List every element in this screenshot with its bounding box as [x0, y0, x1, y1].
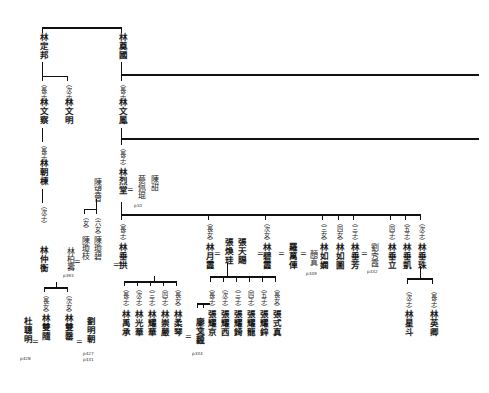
sibling-connector-wencha-wenming	[42, 76, 68, 77]
sibling-connector-lietang-children	[121, 214, 420, 216]
node-lin-shuangsui: 林雙隨	[40, 314, 49, 341]
node-cai-peikun: 蔡佩琨	[136, 175, 144, 199]
ordinal-chen-qiongbi: （六女）	[94, 214, 100, 238]
node-zhang-huangui: 張煥珪	[223, 238, 232, 265]
ordinal-lin-zhonghen: （次子）	[40, 203, 46, 227]
node-lin-chaodong: 林朝棟	[38, 159, 47, 186]
sibling-connector-chuizhu-children	[407, 278, 433, 280]
sibling-connector-shuang-sisters	[44, 287, 68, 289]
node-lin-chuifang: 林垂芳	[349, 243, 358, 270]
marriage-symbol-shuangqing: =	[76, 338, 83, 346]
node-zhang-yaoqi: 張耀錡	[232, 310, 241, 337]
ordinal-lin-chongyan: （四子）	[161, 286, 167, 310]
node-lin-dianguo: 林奠國	[117, 33, 126, 60]
node-zhang-yaoxin: 張耀鋅	[258, 310, 267, 337]
page-ref-lin-baishou: p393	[63, 274, 74, 279]
node-lin-chuili: 林垂立	[386, 243, 395, 270]
node-lin-chuikai: 林垂凱	[401, 243, 410, 270]
node-lin-zhonghen: 林仲衡	[38, 246, 47, 273]
drop-line-lin-yingqing	[432, 278, 433, 284]
node-zhang-yaoxi: 張耀西	[219, 310, 228, 337]
node-zhang-shizhen: 張式真	[271, 310, 280, 337]
ordinal-lin-ruxian: （三女）	[320, 220, 326, 244]
ordinal-chen-qiongzhi: （女）	[82, 214, 88, 232]
node-chen-qiongzhi: 陳瓊枝	[80, 236, 88, 260]
node-zhang-yaojing: 張耀京	[206, 310, 215, 337]
page-ref-du-congming: p428	[20, 357, 31, 362]
marriage-symbol-lietang: =	[127, 186, 134, 194]
drop-line-zhang-shizhen	[275, 276, 276, 282]
node-chen-qiongbi: 陳瓊碧	[92, 236, 100, 260]
ordinal-lin-shuangqing: （次女）	[65, 292, 71, 316]
page-ref-liao-wenyi: p334	[192, 352, 203, 357]
ordinal-lin-yaohua: （三子）	[148, 286, 154, 310]
ordinal-zhang-shizhen: （長女）	[273, 286, 279, 310]
node-lin-wenming: 林文明	[63, 98, 72, 125]
node-lin-ruxian: 林如嫻	[318, 243, 327, 270]
ordinal-lin-lietang: （長子）	[119, 145, 125, 169]
node-lin-yingqing: 林英卿	[428, 310, 437, 337]
node-lin-wencha: 林文察	[38, 98, 47, 125]
node-lin-yucheng: 林禹承	[120, 310, 129, 337]
ordinal-lin-chuikai: （五子）	[403, 220, 409, 244]
node-lin-chongyan: 林崇嚴	[159, 310, 168, 337]
node-lin-rouqin: 林柔琴	[172, 310, 181, 337]
marriage-symbol-shuangsui: =	[32, 338, 39, 346]
ordinal-lin-chuizhu: （次子）	[418, 220, 424, 244]
marriage-symbol-chuigong: =	[113, 261, 120, 269]
marriage-symbol-yuexia: =	[214, 250, 221, 258]
drop-line-zhang-yaojing	[210, 276, 211, 282]
ordinal-lin-rouqin: （長女）	[174, 286, 180, 310]
drop-line-liao-wenjin	[197, 303, 198, 308]
ordinal-lin-xingdou: （次子）	[405, 288, 411, 312]
drop-line-lin-xingdou	[407, 278, 408, 284]
ordinal-lin-chuili: （四子）	[388, 220, 394, 244]
node-zhang-yaolong: 張耀龍	[245, 310, 254, 337]
lateral-rail-lower	[121, 138, 479, 140]
marriage-symbol-rouqin: =	[185, 333, 192, 341]
ordinal-lin-bixia: （次女）	[263, 220, 269, 244]
drop-line-lin-wenfeng	[121, 74, 122, 81]
ordinal-lin-yuexia: （長女）	[206, 220, 212, 244]
ordinal-lin-chuifang: （三子）	[351, 220, 357, 244]
ordinal-lin-shuangsui: （長女）	[42, 292, 48, 316]
sibling-connector-gen1	[42, 27, 122, 29]
stem-lin-chaodong	[42, 189, 43, 203]
ordinal-lin-yucheng: （長子）	[122, 286, 128, 310]
stem-zhang-children	[227, 263, 228, 276]
stem-chuizhu-children	[420, 266, 421, 278]
ordinal-zhang-yaoxin: （五子）	[260, 286, 266, 310]
node-du-congming: 杜聰明	[22, 317, 31, 344]
node-lin-dingbang: 林定邦	[38, 33, 47, 60]
node-lin-yaohua: 林耀華	[146, 310, 155, 337]
node-lin-baishou: 林柏壽	[65, 247, 73, 271]
node-lin-wenfeng: 林文鳳	[117, 98, 126, 125]
page-ref-yan-zhen: p349	[306, 272, 317, 277]
drop-line-lin-lietang	[121, 138, 122, 145]
node-lin-shuangqing: 林雙罄	[63, 314, 72, 341]
drop-line-zhang-yaolong	[249, 276, 250, 282]
genealogy-chart: 林定邦 林奠國 （長子） 林文察 （次子） 林文明 （長子） 林文鳳 （長子） …	[0, 0, 489, 393]
ordinal-lin-guanghua: （次子）	[135, 286, 141, 310]
node-liu-mingchao: 劉明朝	[85, 317, 94, 344]
node-chen-tian: 陳甜	[149, 175, 157, 191]
stem-chen-wangzeng	[96, 199, 97, 209]
ordinal-lin-chuigong: （長子）	[119, 220, 125, 244]
lateral-rail-upper	[121, 74, 479, 76]
stem-lin-dingbang	[42, 62, 43, 76]
stem-lin-wencha	[42, 128, 43, 142]
node-lin-bixia: 林碧霞	[261, 243, 270, 270]
node-lin-xingdou: 林星斗	[403, 310, 412, 337]
node-yan-zhen: 顏真	[308, 250, 316, 266]
node-lin-yuexia: 林月霞	[204, 243, 213, 270]
marriage-symbol-yanzhen: =	[300, 250, 307, 258]
node-lin-rutu: 林如圖	[334, 243, 343, 270]
ordinal-zhang-yaojing: （長子）	[208, 286, 214, 310]
sibling-connector-zhang-children	[210, 276, 275, 278]
page-ref-liu-mingchao-2: p431	[83, 358, 94, 363]
marriage-symbol-qiongzhi: =	[74, 258, 81, 266]
ordinal-zhang-yaoxi: （次子）	[221, 286, 227, 310]
node-luo-wanche: 羅萬俥	[287, 243, 296, 270]
page-ref-liu-xiuxia: p332	[367, 270, 378, 275]
node-zhang-tianci: 張天賜	[236, 238, 245, 265]
